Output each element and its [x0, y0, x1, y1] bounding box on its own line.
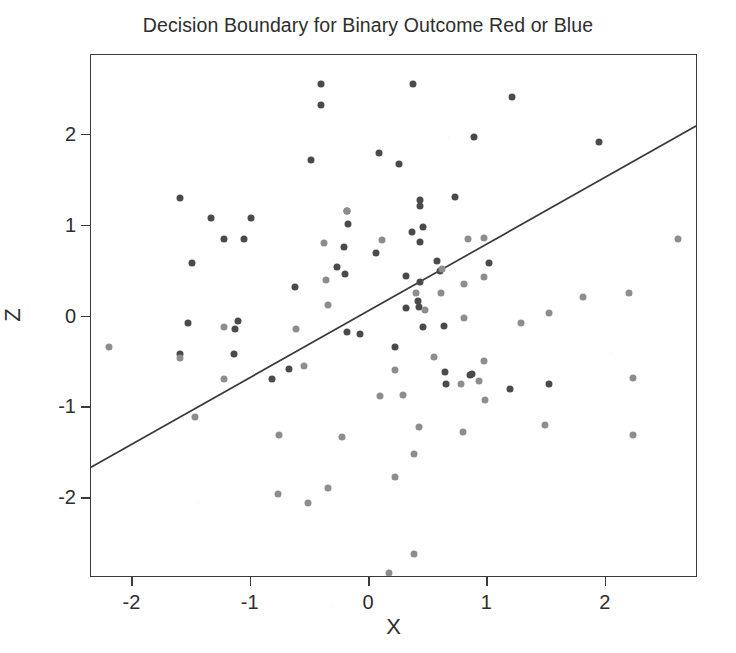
data-point: [285, 366, 292, 373]
data-point: [343, 328, 350, 335]
data-point: [629, 431, 636, 438]
data-point: [373, 249, 380, 256]
data-point: [376, 393, 383, 400]
data-point: [509, 93, 516, 100]
data-point: [413, 289, 420, 296]
x-tick-mark: [250, 577, 252, 586]
data-point: [438, 289, 445, 296]
data-point: [400, 392, 407, 399]
y-tick-label: 0: [44, 304, 76, 327]
data-point: [240, 236, 247, 243]
data-point: [409, 81, 416, 88]
data-point: [232, 326, 239, 333]
x-tick-label: 1: [481, 591, 492, 614]
data-point: [231, 350, 238, 357]
y-tick-mark: [81, 497, 90, 499]
data-points-layer: [91, 55, 696, 576]
data-point: [415, 424, 422, 431]
data-point: [176, 195, 183, 202]
data-point: [220, 236, 227, 243]
data-point: [274, 490, 281, 497]
data-point: [595, 139, 602, 146]
y-tick-mark: [81, 225, 90, 227]
data-point: [471, 133, 478, 140]
data-point: [482, 397, 489, 404]
data-point: [321, 239, 328, 246]
data-point: [341, 244, 348, 251]
data-point: [317, 101, 324, 108]
data-point: [545, 380, 552, 387]
data-point: [421, 307, 428, 314]
data-point: [480, 273, 487, 280]
data-point: [188, 259, 195, 266]
data-point: [517, 319, 524, 326]
data-point: [356, 330, 363, 337]
data-point: [460, 280, 467, 287]
data-point: [220, 376, 227, 383]
data-point: [338, 434, 345, 441]
data-point: [466, 371, 473, 378]
x-tick-label: -2: [123, 591, 141, 614]
data-point: [485, 259, 492, 266]
data-point: [459, 428, 466, 435]
x-tick-mark: [486, 577, 488, 586]
data-point: [343, 208, 350, 215]
data-point: [105, 344, 112, 351]
data-point: [629, 375, 636, 382]
data-point: [476, 377, 483, 384]
x-axis-label: X: [90, 614, 697, 640]
y-tick-mark: [81, 134, 90, 136]
data-point: [192, 414, 199, 421]
x-tick-mark: [368, 577, 370, 586]
data-point: [416, 239, 423, 246]
data-point: [420, 223, 427, 230]
data-point: [324, 301, 331, 308]
y-axis-label: Z: [0, 308, 26, 321]
data-point: [334, 264, 341, 271]
data-point: [402, 305, 409, 312]
data-point: [323, 277, 330, 284]
data-point: [344, 220, 351, 227]
data-point: [439, 266, 446, 273]
data-point: [442, 380, 449, 387]
data-point: [416, 197, 423, 204]
data-point: [431, 354, 438, 361]
data-point: [392, 367, 399, 374]
data-point: [207, 214, 214, 221]
y-tick-label: -1: [44, 395, 76, 418]
data-point: [411, 450, 418, 457]
data-point: [220, 324, 227, 331]
data-point: [458, 380, 465, 387]
data-point: [386, 570, 393, 576]
data-point: [300, 362, 307, 369]
y-tick-mark: [81, 406, 90, 408]
data-point: [324, 485, 331, 492]
plot-panel: [90, 54, 697, 577]
data-point: [247, 214, 254, 221]
x-tick-mark: [605, 577, 607, 586]
data-point: [395, 160, 402, 167]
page-title: Decision Boundary for Binary Outcome Red…: [0, 14, 736, 37]
x-tick-label: 0: [362, 591, 373, 614]
data-point: [441, 368, 448, 375]
data-point: [480, 357, 487, 364]
y-tick-label: 2: [44, 122, 76, 145]
data-point: [411, 551, 418, 558]
data-point: [506, 386, 513, 393]
data-point: [480, 235, 487, 242]
x-tick-mark: [131, 577, 133, 586]
data-point: [626, 289, 633, 296]
data-point: [304, 499, 311, 506]
data-point: [433, 258, 440, 265]
data-point: [420, 324, 427, 331]
y-tick-mark: [81, 316, 90, 318]
data-point: [392, 344, 399, 351]
data-point: [402, 272, 409, 279]
data-point: [674, 236, 681, 243]
y-tick-label: -2: [44, 486, 76, 509]
x-tick-label: 2: [599, 591, 610, 614]
data-point: [408, 229, 415, 236]
y-tick-label: 1: [44, 213, 76, 236]
data-point: [291, 284, 298, 291]
data-point: [342, 270, 349, 277]
